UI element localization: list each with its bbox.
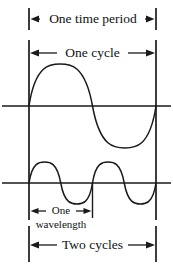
arrow-right-icon	[146, 49, 155, 56]
arrow-right-icon	[146, 16, 155, 23]
label-one-wavelength-line2: wavelength	[36, 218, 87, 230]
arrow-left-icon	[30, 49, 39, 56]
label-one-cycle: One cycle	[65, 45, 119, 60]
label-one-time-period: One time period	[49, 11, 137, 26]
annotation-one-time-period: One time period	[31, 11, 155, 26]
wave-figure: One time period One cycle One wavelength…	[0, 0, 173, 271]
arrow-left-icon	[31, 208, 39, 214]
arrow-right-icon	[84, 208, 92, 214]
annotation-one-wavelength: One wavelength	[31, 204, 92, 230]
arrow-left-icon	[31, 16, 40, 23]
annotation-one-cycle: One cycle	[30, 45, 155, 60]
label-one-wavelength-line1: One	[52, 204, 70, 216]
wave-diagram: One time period One cycle One wavelength…	[0, 0, 173, 271]
arrow-left-icon	[30, 241, 39, 248]
arrow-right-icon	[146, 241, 155, 248]
annotation-two-cycles: Two cycles	[30, 237, 155, 252]
label-two-cycles: Two cycles	[62, 237, 123, 252]
